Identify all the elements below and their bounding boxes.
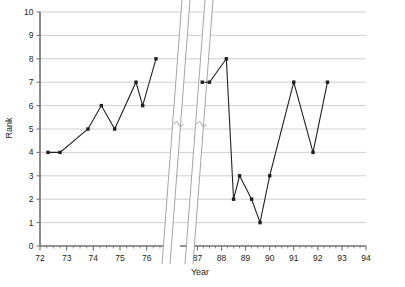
data-point-marker (238, 174, 241, 177)
data-point-marker (141, 104, 144, 107)
data-point-marker (250, 198, 253, 201)
axis-break-marker (162, 0, 213, 264)
data-point-marker (154, 57, 157, 60)
x-axis-right-tick-label-94: 94 (361, 253, 371, 263)
axis-break-mask (162, 0, 190, 264)
x-axis-left-tick-label-75: 75 (115, 253, 125, 263)
x-axis-left-tick-label-73: 73 (62, 253, 72, 263)
x-axis-right-ticks-group: 8788899091929394 (193, 246, 371, 263)
data-point-marker (326, 81, 329, 84)
y-tick-label-9: 9 (29, 30, 34, 40)
y-tick-label-6: 6 (29, 101, 34, 111)
data-point-marker (225, 57, 228, 60)
data-point-marker (86, 127, 89, 130)
x-axis-right-tick-label-87: 87 (193, 253, 203, 263)
data-point-marker (268, 174, 271, 177)
data-point-marker (208, 81, 211, 84)
y-axis-ticks-group: 012345678910 (24, 7, 40, 251)
data-point-marker (58, 151, 61, 154)
x-axis-left-tick-label-76: 76 (142, 253, 152, 263)
y-tick-label-5: 5 (29, 124, 34, 134)
data-point-marker (46, 151, 49, 154)
x-axis-left-tick-label-72: 72 (35, 253, 45, 263)
x-axis-right-tick-label-89: 89 (241, 253, 251, 263)
data-point-marker (258, 221, 261, 224)
y-tick-label-7: 7 (29, 77, 34, 87)
x-axis-title: Year (191, 267, 209, 277)
x-axis-right-tick-label-88: 88 (217, 253, 227, 263)
y-axis-title: Rank (4, 117, 14, 139)
x-axis-left-tick-label-74: 74 (89, 253, 99, 263)
x-axis-right-tick-label-91: 91 (289, 253, 299, 263)
y-tick-label-4: 4 (29, 147, 34, 157)
x-axis-right-tick-label-92: 92 (313, 253, 323, 263)
y-tick-label-0: 0 (29, 241, 34, 251)
x-axis-right-tick-label-90: 90 (265, 253, 275, 263)
x-axis-right-tick-label-93: 93 (337, 253, 347, 263)
x-axis-left-ticks-group: 7273747576 (35, 246, 160, 263)
data-point-marker (232, 198, 235, 201)
data-point-marker (100, 104, 103, 107)
series-late-line (202, 59, 327, 223)
axis-break-mask (185, 0, 213, 264)
y-tick-label-1: 1 (29, 218, 34, 228)
data-point-marker (292, 81, 295, 84)
rank-vs-year-line-chart: 01234567891072737475768788899091929394Ye… (0, 0, 405, 287)
data-point-marker (113, 127, 116, 130)
y-tick-label-10: 10 (24, 7, 34, 17)
data-point-marker (311, 151, 314, 154)
data-point-marker (134, 81, 137, 84)
chart-canvas: 01234567891072737475768788899091929394Ye… (0, 0, 405, 287)
y-tick-label-8: 8 (29, 54, 34, 64)
y-tick-label-3: 3 (29, 171, 34, 181)
data-point-marker (201, 81, 204, 84)
y-tick-label-2: 2 (29, 194, 34, 204)
